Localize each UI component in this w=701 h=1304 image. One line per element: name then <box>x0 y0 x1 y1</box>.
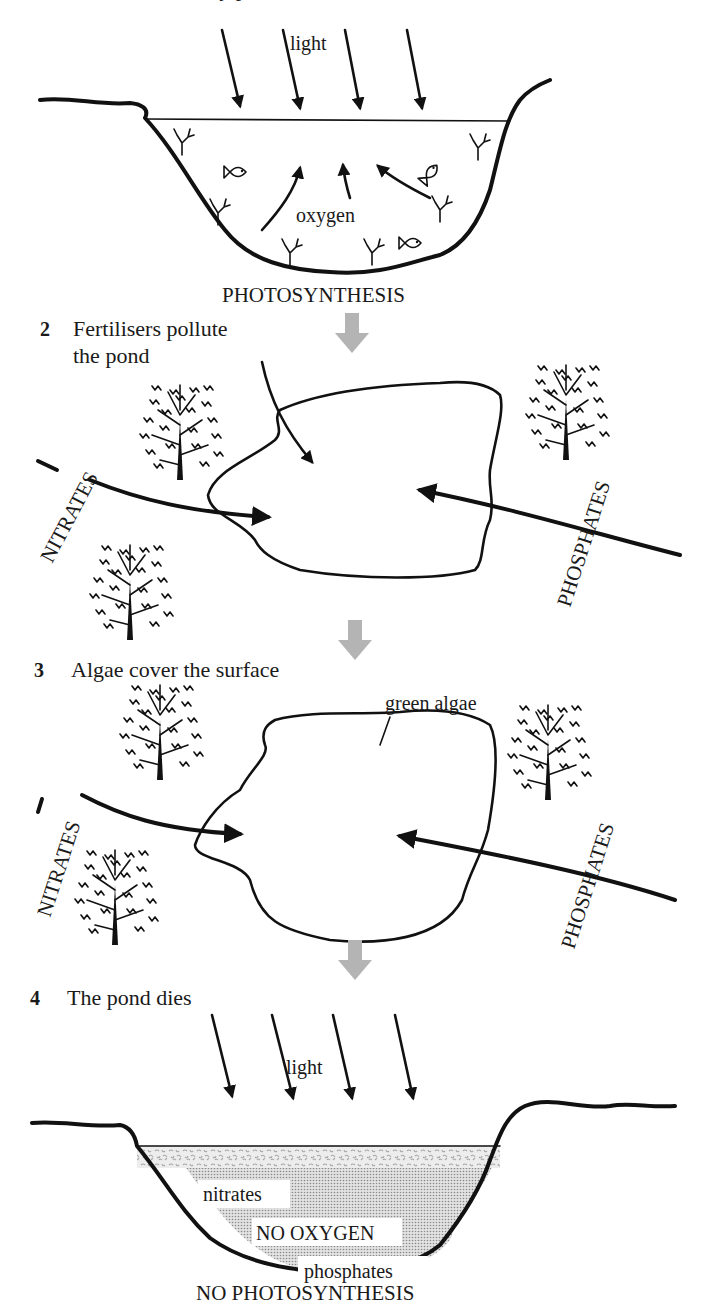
nitrates-text: nitrates <box>203 1183 262 1205</box>
eutrophication-diagram: 1 A healthy pond light oxygen PHOTOSYNTH… <box>0 0 701 1304</box>
no-oxygen-text: NO OXYGEN <box>256 1222 374 1244</box>
tree-icon <box>526 365 609 460</box>
tree-icon <box>508 705 591 800</box>
section-4-title: The pond dies <box>67 985 192 1010</box>
step-arrow-icon <box>338 620 372 660</box>
light-label-2: light <box>286 1056 323 1079</box>
step-arrow-icon <box>338 940 372 980</box>
step-arrow-icon <box>335 313 369 353</box>
section-2-fertilisers: 2 Fertilisers pollute the pond NITRATES … <box>35 316 680 660</box>
section-2-title-line2: the pond <box>73 343 149 368</box>
no-photosynthesis-caption: NO PHOTOSYNTHESIS <box>196 1281 414 1304</box>
section-4-pond-dies: 4 The pond dies light nitrates NO OXYGEN… <box>30 985 675 1304</box>
green-algae-label: green algae <box>385 692 477 715</box>
section-3-number: 3 <box>34 659 44 681</box>
tree-icon <box>120 685 203 780</box>
tree-icon <box>75 850 158 945</box>
phosphates-label: PHOSPHATES <box>552 478 615 610</box>
tree-icon <box>90 545 173 640</box>
phosphates-label-2: PHOSPHATES <box>556 820 619 952</box>
nitrates-label-2: NITRATES <box>32 818 85 920</box>
oxygen-label: oxygen <box>296 204 355 227</box>
section-3-title: Algae cover the surface <box>71 657 279 682</box>
fish-icon <box>224 166 246 178</box>
light-label: light <box>290 32 327 55</box>
section-1-healthy-pond: 1 A healthy pond light oxygen PHOTOSYNTH… <box>40 0 550 353</box>
section-2-number: 2 <box>40 318 50 340</box>
nitrates-label: NITRATES <box>35 468 103 567</box>
photosynthesis-caption: PHOTOSYNTHESIS <box>222 283 405 307</box>
tree-icon <box>140 385 223 480</box>
section-1-title-clipped: 1 A healthy pond <box>130 0 280 1</box>
phosphates-text: phosphates <box>304 1260 393 1283</box>
section-2-title-line1: Fertilisers pollute <box>73 316 228 341</box>
section-3-algae: 3 Algae cover the surface green algae NI… <box>32 657 675 980</box>
section-4-number: 4 <box>30 987 40 1009</box>
